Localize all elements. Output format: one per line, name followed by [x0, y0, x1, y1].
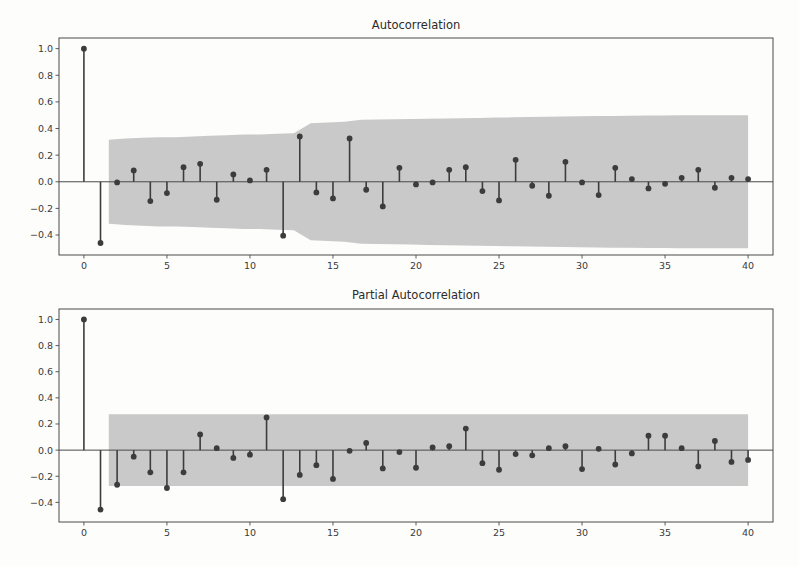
stem-marker	[695, 464, 701, 470]
stem-marker	[579, 180, 585, 186]
y-tick-label: 1.0	[38, 43, 53, 54]
stem-marker	[380, 466, 386, 472]
y-tick-label: 1.0	[38, 314, 53, 325]
stem-marker	[513, 451, 519, 457]
x-tick-label: 0	[81, 527, 87, 538]
stem-marker	[330, 196, 336, 202]
stem-marker	[164, 190, 170, 196]
plot-title: Autocorrelation	[372, 18, 460, 32]
stem-marker	[496, 467, 502, 473]
x-tick-label: 20	[410, 260, 422, 271]
stem-marker	[247, 452, 253, 458]
stem-marker	[131, 454, 137, 460]
stem-marker	[529, 452, 535, 458]
stem-marker	[430, 445, 436, 451]
x-tick-label: 25	[493, 527, 505, 538]
y-tick-label: −0.2	[30, 203, 53, 214]
x-tick-label: 30	[576, 527, 588, 538]
x-tick-label: 5	[164, 527, 170, 538]
stem-marker	[147, 198, 153, 204]
stem-marker	[397, 165, 403, 171]
stem-marker	[131, 168, 137, 174]
stem-marker	[745, 176, 751, 182]
stem-marker	[280, 233, 286, 239]
stem-marker	[264, 415, 270, 421]
stem-marker	[662, 181, 668, 187]
y-tick-label: 0.4	[38, 123, 53, 134]
y-tick-label: 0.0	[38, 176, 53, 187]
stem-marker	[496, 198, 502, 204]
stem-marker	[745, 457, 751, 463]
stem-marker	[513, 157, 519, 163]
x-tick-label: 5	[164, 260, 170, 271]
stem-marker	[264, 167, 270, 173]
stem-marker	[98, 240, 104, 246]
stem-marker	[729, 459, 735, 465]
stem-marker	[463, 426, 469, 432]
stem-marker	[446, 167, 452, 173]
stem-marker	[230, 172, 236, 178]
pacf-panel: Partial Autocorrelation1.00.80.60.40.20.…	[0, 283, 799, 566]
stem-marker	[579, 466, 585, 472]
y-tick-label: 0.0	[38, 445, 53, 456]
stem-marker	[646, 433, 652, 439]
stem-marker	[247, 178, 253, 184]
stem-marker	[413, 465, 419, 471]
stem-marker	[197, 432, 203, 438]
stem-marker	[147, 469, 153, 475]
x-tick-label: 15	[327, 527, 339, 538]
stem-marker	[712, 185, 718, 191]
stem-marker	[380, 204, 386, 210]
stem-marker	[695, 167, 701, 173]
acf-plot: Autocorrelation1.00.80.60.40.20.0−0.2−0.…	[0, 0, 799, 283]
stem-marker	[612, 165, 618, 171]
stem-marker	[214, 445, 220, 451]
x-tick-label: 35	[659, 527, 671, 538]
stem-marker	[679, 175, 685, 181]
stem-marker	[480, 460, 486, 466]
stem-marker	[563, 443, 569, 449]
y-tick-label: 0.2	[38, 418, 53, 429]
stem-marker	[662, 433, 668, 439]
acf-panel: Autocorrelation1.00.80.60.40.20.0−0.2−0.…	[0, 0, 799, 283]
y-tick-label: 0.6	[38, 366, 53, 377]
stem-marker	[347, 448, 353, 454]
stem-marker	[164, 485, 170, 491]
stem-marker	[297, 472, 303, 478]
y-tick-label: 0.8	[38, 70, 53, 81]
y-tick-label: −0.2	[30, 471, 53, 482]
y-tick-label: 0.2	[38, 150, 53, 161]
y-tick-label: 0.6	[38, 96, 53, 107]
pacf-plot: Partial Autocorrelation1.00.80.60.40.20.…	[0, 283, 799, 566]
stem-marker	[546, 445, 552, 451]
stem-marker	[563, 159, 569, 165]
stem-marker	[230, 455, 236, 461]
x-tick-label: 40	[742, 527, 754, 538]
x-tick-label: 15	[327, 260, 339, 271]
stem-marker	[612, 462, 618, 468]
x-tick-label: 20	[410, 527, 422, 538]
stem-marker	[81, 317, 87, 323]
stem-marker	[214, 197, 220, 203]
stem-marker	[596, 192, 602, 198]
stem-marker	[114, 180, 120, 186]
stem-marker	[629, 451, 635, 457]
stem-marker	[313, 462, 319, 468]
stem-marker	[646, 186, 652, 192]
y-tick-label: −0.4	[30, 229, 53, 240]
stem-marker	[480, 188, 486, 194]
y-tick-label: 0.8	[38, 340, 53, 351]
stem-marker	[596, 446, 602, 452]
stem-marker	[679, 445, 685, 451]
x-tick-label: 40	[742, 260, 754, 271]
stem-marker	[413, 182, 419, 188]
plot-title: Partial Autocorrelation	[352, 288, 480, 302]
stem-marker	[363, 187, 369, 193]
stem-marker	[729, 175, 735, 181]
x-tick-label: 0	[81, 260, 87, 271]
stem-marker	[430, 180, 436, 186]
stem-marker	[446, 443, 452, 449]
stem-marker	[313, 190, 319, 196]
stem-marker	[81, 46, 87, 52]
stem-marker	[114, 482, 120, 488]
